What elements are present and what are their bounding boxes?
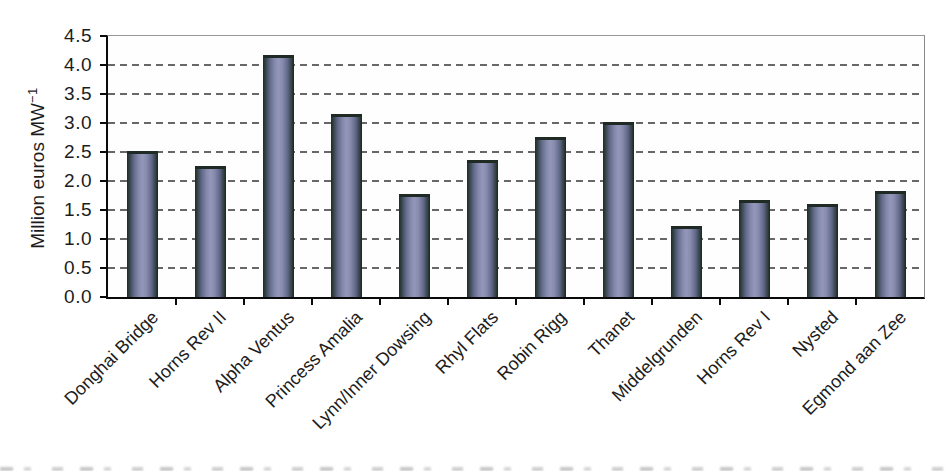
bar-alpha-ventus [263,55,294,297]
gridline-3.0 [108,122,924,124]
cropped-caption-strip [0,467,945,471]
y-tick-label: 2.0 [0,170,92,192]
plot-area [106,35,925,299]
bar-lynn-inner-dowsing [399,194,430,297]
y-tick-label: 3.5 [0,83,92,105]
x-tick [311,299,313,305]
y-tick-label: 4.0 [0,54,92,76]
y-tick-label: 2.5 [0,141,92,163]
x-tick-label-lynn-inner-dowsing: Lynn/Inner Dowsing [262,307,420,327]
x-tick [447,299,449,305]
y-tick [100,93,107,95]
y-tick-label: 0.0 [0,286,92,308]
y-tick-label: 1.0 [0,228,92,250]
x-tick-label-robin-rigg: Robin Rigg [467,307,556,327]
y-tick [100,122,107,124]
y-tick [100,238,107,240]
y-tick [100,151,107,153]
x-tick [515,299,517,305]
gridline-4.0 [108,64,924,66]
x-tick-label-text: Robin Rigg [493,307,570,384]
x-tick [719,299,721,305]
x-tick-label-horns-rev-i: Horns Rev I [665,307,760,327]
x-tick [379,299,381,305]
y-tick-label: 3.0 [0,112,92,134]
x-tick [175,299,177,305]
y-tick [100,64,107,66]
gridline-2.0 [108,180,924,182]
bar-thanet [603,122,634,297]
bar-middelgrunden [671,226,702,297]
y-tick-label: 4.5 [0,25,92,47]
y-tick-label: 1.5 [0,199,92,221]
bar-egmond-aan-zee [875,191,906,297]
bar-princess-amalia [331,114,362,297]
y-tick [100,209,107,211]
gridline-2.5 [108,151,924,153]
gridline-1.5 [108,209,924,211]
y-tick-label: 0.5 [0,257,92,279]
bar-rhyl-flats [467,160,498,297]
x-tick [855,299,857,305]
x-tick-label-egmond-aan-zee: Egmond aan Zee [758,307,896,327]
y-tick [100,267,107,269]
y-tick [100,180,107,182]
y-tick [100,296,107,298]
bar-horns-rev-ii [195,166,226,297]
bar-donghai-bridge [127,151,158,297]
x-tick-label-text: Egmond aan Zee [798,307,910,419]
x-tick [583,299,585,305]
gridline-1.0 [108,238,924,240]
x-tick [787,299,789,305]
gridline-0.5 [108,267,924,269]
bar-horns-rev-i [739,200,770,297]
bar-robin-rigg [535,137,566,297]
bar-chart-figure: Million euros MW−1 0.00.51.01.52.02.53.0… [0,0,945,471]
x-tick [243,299,245,305]
gridline-3.5 [108,93,924,95]
x-tick [651,299,653,305]
y-tick [100,35,107,37]
bar-nysted [807,204,838,297]
